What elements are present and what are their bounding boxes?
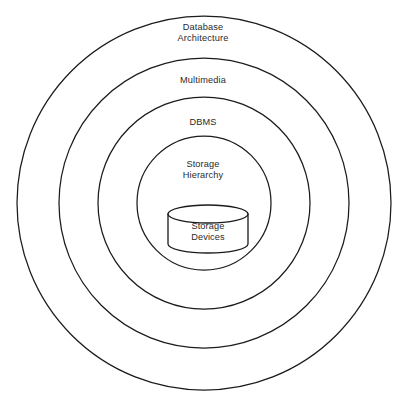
core-label-storage-devices: Storage Devices [163,221,253,244]
ring-label-dbms: DBMS [0,117,406,128]
ring-label-multimedia: Multimedia [0,75,406,86]
ring-label-storage-hierarchy: Storage Hierarchy [0,159,406,182]
concentric-rings-diagram: Database Architecture Multimedia DBMS St… [0,0,406,410]
ring-label-database-architecture: Database Architecture [0,22,406,45]
diagram-canvas [0,0,406,410]
